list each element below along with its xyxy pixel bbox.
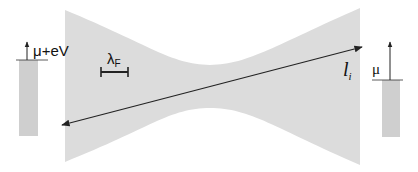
left-reservoir-bar [19,60,38,136]
right-reservoir-label: μ [372,61,380,77]
right-reservoir-bar [382,80,400,137]
right-reservoir [372,42,403,137]
qpc-diagram: μ+eV λF li μ [0,0,418,172]
constriction-shape [65,8,360,165]
left-reservoir-label: μ+eV [33,42,69,59]
